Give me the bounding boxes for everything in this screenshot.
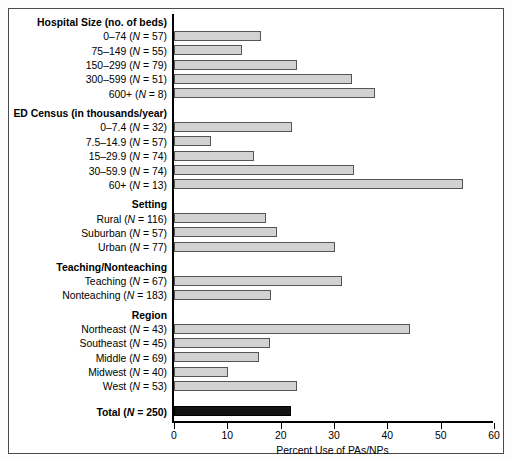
label-text: 75–149 ( [92,46,133,57]
label-text: 0–74 ( [103,31,132,42]
category-label: 300–599 (N = 51) [9,74,172,85]
label-text: 7.5–14.9 ( [86,137,133,148]
label-count: = 67) [140,276,167,287]
category-label: West (N = 53) [9,381,172,392]
category-label: Suburban (N = 57) [9,228,172,239]
label-text: West ( [103,381,133,392]
x-tick [441,423,442,429]
label-count: = 69) [140,353,167,364]
label-count: = 45) [140,338,167,349]
label-count: = 57) [140,228,167,239]
x-axis-title: Percent Use of PAs/NPs [172,445,493,456]
data-bar [174,88,375,98]
x-tick-label: 20 [275,430,287,441]
n-symbol: N [128,214,136,225]
x-tick [227,423,228,429]
x-tick-label: 60 [488,430,500,441]
n-symbol: N [133,276,141,287]
n-symbol: N [133,338,141,349]
n-symbol: N [133,46,141,57]
group-heading: Teaching/Nonteaching [9,262,172,273]
label-count: = 57) [140,31,167,42]
label-text: 15–29.9 ( [89,151,133,162]
label-count: = 32) [140,122,167,133]
category-label: 60+ (N = 13) [9,180,172,191]
data-bar [174,242,335,252]
data-bar [174,122,292,132]
label-count: = 116) [135,214,167,225]
total-bar [174,406,291,416]
category-label: Southeast (N = 45) [9,338,172,349]
n-symbol: N [133,166,141,177]
x-tick-label: 10 [222,430,234,441]
data-bar [174,213,266,223]
n-symbol: N [133,242,141,253]
label-count: = 53) [140,381,167,392]
label-text: 150–299 ( [86,60,133,71]
category-label: 75–149 (N = 55) [9,46,172,57]
label-text: Midwest ( [88,367,132,378]
n-symbol: N [133,60,141,71]
label-count: = 8) [146,89,167,100]
data-bar [174,151,254,161]
label-count: = 79) [140,60,167,71]
category-label: Rural (N = 116) [9,214,172,225]
n-symbol: N [133,228,141,239]
data-bar [174,381,297,391]
n-symbol: N [133,353,141,364]
x-axis-line [172,421,493,423]
category-label: 600+ (N = 8) [9,89,172,100]
category-label: Urban (N = 77) [9,242,172,253]
label-text: 30–59.9 ( [89,166,133,177]
label-text: Rural ( [96,214,127,225]
data-bar [174,136,211,146]
category-label: Nonteaching (N = 183) [9,290,172,301]
label-count: = 40) [140,367,167,378]
total-label: Total (N = 250) [9,407,172,418]
category-label: 0–7.4 (N = 32) [9,122,172,133]
data-bar [174,165,354,175]
n-symbol: N [133,74,141,85]
n-symbol: N [133,324,141,335]
label-text: 600+ ( [109,89,139,100]
data-bar [174,352,259,362]
category-label: 0–74 (N = 57) [9,31,172,42]
x-tick [174,423,175,429]
category-label: Middle (N = 69) [9,353,172,364]
data-bar [174,367,228,377]
plot-area: 0102030405060 Percent Use of PAs/NPs [172,9,505,455]
group-heading: Hospital Size (no. of beds) [9,17,172,28]
label-text: Urban ( [98,242,133,253]
category-label: Midwest (N = 40) [9,367,172,378]
label-count: = 183) [134,290,167,301]
label-text: 300–599 ( [86,74,133,85]
label-text: 0–7.4 ( [100,122,132,133]
category-label: Northeast (N = 43) [9,324,172,335]
label-text: Northeast ( [81,324,132,335]
data-bar [174,179,463,189]
category-label-column: Hospital Size (no. of beds)0–74 (N = 57)… [9,9,172,455]
label-text: Total ( [96,407,126,418]
x-tick [387,423,388,429]
label-count: = 74) [140,166,167,177]
data-bar [174,290,271,300]
x-tick [334,423,335,429]
data-bar [174,324,410,334]
label-text: Middle ( [96,353,133,364]
x-tick-label: 0 [171,430,177,441]
data-bar [174,74,352,84]
label-count: = 55) [140,46,167,57]
x-tick-label: 40 [382,430,394,441]
category-label: 7.5–14.9 (N = 57) [9,137,172,148]
category-label: Teaching (N = 67) [9,276,172,287]
label-text: Suburban ( [81,228,132,239]
group-heading: ED Census (in thousands/year) [9,108,172,119]
n-symbol: N [133,31,141,42]
n-symbol: N [133,137,141,148]
data-bar [174,338,270,348]
n-symbol: N [138,89,146,100]
n-symbol: N [133,151,141,162]
figure: Hospital Size (no. of beds)0–74 (N = 57)… [0,0,512,462]
label-count: = 77) [140,242,167,253]
label-count: = 13) [140,180,167,191]
